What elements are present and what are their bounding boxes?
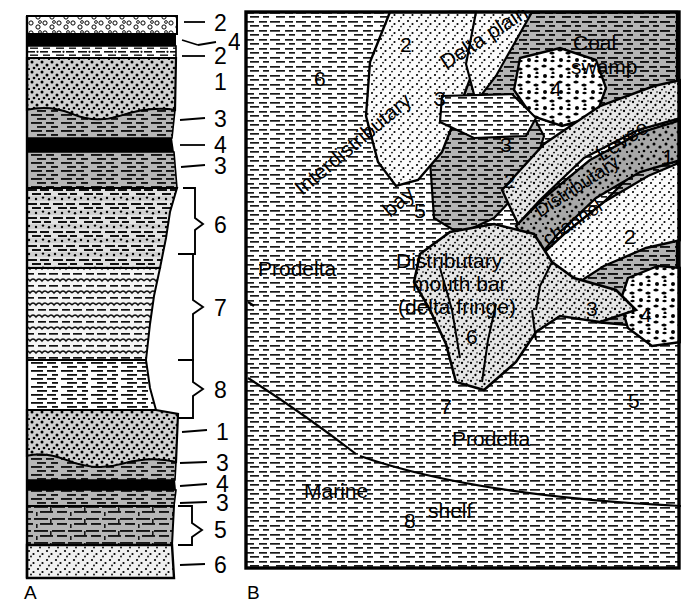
map-number-12: 5 [628, 389, 640, 412]
map-number-2: 3 [434, 87, 446, 110]
map-label-marine: Marine [304, 479, 368, 502]
panel-b-letter: B [247, 582, 260, 604]
map-number-10: 3 [586, 297, 598, 320]
figure-root: 2 4 2 1 3 4 3 6 7 8 1 3 4 3 5 6 [0, 0, 685, 615]
column-unit-u8 [27, 188, 177, 268]
column-label-9: 8 [214, 377, 227, 403]
column-label-10: 1 [216, 419, 229, 445]
column-label-14: 5 [214, 517, 227, 543]
map-label-coal-swamp-2: swamp [571, 55, 638, 78]
column-label-8: 7 [214, 295, 227, 321]
map-number-13: 7 [440, 395, 452, 418]
map-label-prodelta-lower: Prodelta [452, 427, 531, 450]
column-unit-u3 [27, 46, 176, 58]
delta-map-svg: Delta plain Coal swamp Levee Distributar… [244, 10, 681, 570]
column-unit-u9 [27, 268, 160, 360]
column-label-7: 6 [214, 212, 227, 238]
panel-a-stratigraphic-column: 2 4 2 1 3 4 3 6 7 8 1 3 4 3 5 6 [0, 0, 240, 600]
column-unit-u15 [27, 506, 174, 545]
column-label-3: 1 [214, 69, 227, 95]
column-label-0: 2 [214, 10, 227, 36]
panel-a-letter: A [24, 582, 37, 604]
map-number-0: 6 [314, 67, 326, 90]
column-unit-u6 [27, 138, 174, 152]
map-number-8: 5 [414, 199, 426, 222]
map-number-9: 6 [466, 325, 478, 348]
map-number-3: 4 [550, 77, 562, 100]
column-units [27, 16, 178, 578]
column-unit-u7 [27, 152, 177, 188]
column-unit-u13 [27, 480, 176, 490]
map-number-6: 1 [662, 145, 674, 168]
column-unit-u2 [27, 34, 176, 46]
column-braces [178, 188, 203, 545]
map-label-mouth-bar-2: mouth bar [412, 272, 507, 295]
column-svg: 2 4 2 1 3 4 3 6 7 8 1 3 4 3 5 6 [0, 0, 240, 600]
column-label-1: 4 [228, 29, 240, 55]
column-label-6: 3 [214, 153, 227, 179]
map-label-coal-swamp-1: Coal [573, 31, 616, 54]
map-number-14: 8 [404, 509, 416, 532]
column-label-15: 6 [214, 552, 227, 578]
map-label-mouth-bar-3: (delta fringe) [398, 295, 516, 318]
column-unit-u1 [27, 16, 177, 34]
column-facies-labels: 2 4 2 1 3 4 3 6 7 8 1 3 4 3 5 6 [214, 10, 240, 578]
map-number-1: 2 [400, 33, 412, 56]
column-label-13: 3 [216, 490, 229, 516]
map-number-7: 2 [624, 225, 636, 248]
map-label-prodelta-upper: Prodelta [258, 257, 337, 280]
map-label-mouth-bar-1: Distributary [396, 249, 503, 272]
panel-b-delta-map: Delta plain Coal swamp Levee Distributar… [244, 10, 681, 570]
column-unit-u14 [27, 490, 176, 506]
map-number-5: 2 [504, 169, 516, 192]
column-leader-lines [180, 22, 216, 565]
column-unit-u16 [27, 545, 174, 578]
column-unit-u10 [27, 360, 156, 410]
map-number-11: 4 [640, 303, 652, 326]
column-label-4: 3 [214, 106, 227, 132]
map-number-4: 3 [500, 133, 512, 156]
map-label-shelf: shelf [428, 499, 473, 522]
column-label-2: 2 [214, 43, 227, 69]
